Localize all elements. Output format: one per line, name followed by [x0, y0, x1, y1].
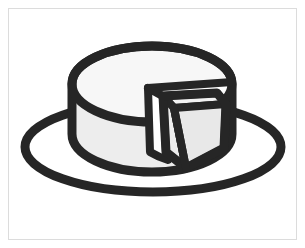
- illustration-canvas: Cheese wheel with cut slice on a plate: [0, 0, 305, 248]
- cheese-wheel-artwork: [0, 0, 305, 248]
